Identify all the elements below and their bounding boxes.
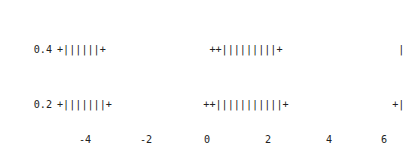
plot-row-data: +|||||||+ ++|||||||||||+ +| bbox=[57, 99, 404, 110]
plot-row-data: +||||||+ ++|||||||||+ | bbox=[57, 44, 404, 55]
x-tick-label: 0 bbox=[204, 134, 210, 145]
ascii-plot: 0.4+||||||+ ++|||||||||+ | 0.2+|||||||+ … bbox=[0, 4, 404, 155]
y-tick-label: 0.4 bbox=[0, 41, 57, 59]
x-tick-label: 2 bbox=[265, 134, 271, 145]
x-tick-label: 6 bbox=[381, 134, 387, 145]
x-tick-label: 4 bbox=[326, 134, 332, 145]
plot-row: 0.4+||||||+ ++|||||||||+ | bbox=[0, 41, 404, 59]
plot-row-data: ++++++++++++++++++++++++++++++++++++++++… bbox=[57, 154, 404, 155]
y-tick-label: 0.2 bbox=[0, 96, 57, 114]
x-axis-tick-labels: -4 -2 0 2 4 6 bbox=[0, 134, 420, 154]
x-tick-label: -4 bbox=[79, 134, 91, 145]
plot-row: 0.2+|||||||+ ++|||||||||||+ +| bbox=[0, 96, 404, 114]
x-tick-label: -2 bbox=[140, 134, 152, 145]
